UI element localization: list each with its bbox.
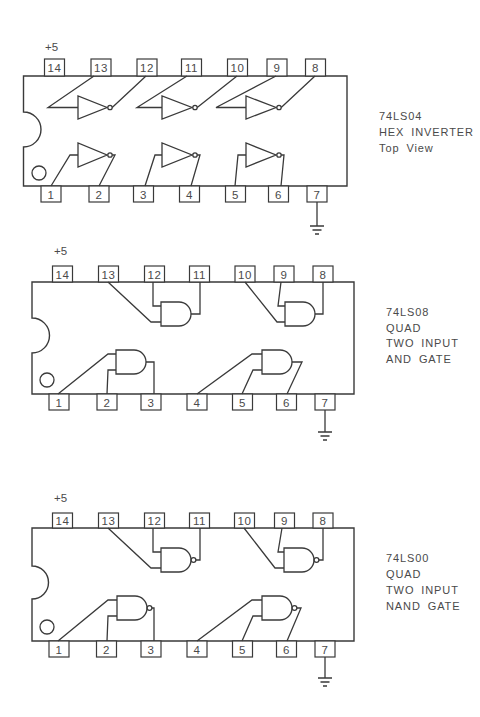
pin-3: 3 [141, 641, 161, 657]
top-pin-row: 14 13 12 11 10 9 8 [45, 59, 326, 76]
chip-label: 74LS00 QUAD TWO INPUT NAND GATE [386, 552, 460, 612]
pin-5: 5 [233, 641, 253, 657]
svg-text:6: 6 [283, 397, 290, 409]
chip-74ls00: +5 14 13 12 11 10 9 8 1 2 3 4 5 6 7 [32, 492, 460, 686]
chip-description: QUAD [386, 568, 421, 580]
supply-label: +5 [45, 41, 58, 53]
svg-text:10: 10 [238, 515, 252, 527]
pin-13: 13 [91, 59, 111, 76]
svg-text:13: 13 [102, 269, 116, 281]
part-number: 74LS00 [386, 552, 429, 564]
pin-1: 1 [49, 394, 69, 410]
svg-text:3: 3 [140, 189, 147, 201]
svg-text:4: 4 [194, 644, 201, 656]
svg-text:4: 4 [194, 397, 201, 409]
svg-text:8: 8 [320, 269, 327, 281]
chip-label: 74LS08 QUAD TWO INPUT AND GATE [386, 306, 459, 365]
svg-text:13: 13 [102, 515, 116, 527]
svg-text:5: 5 [232, 189, 239, 201]
pin-4: 4 [187, 641, 207, 657]
pin-9: 9 [275, 513, 295, 528]
svg-text:5: 5 [239, 397, 246, 409]
svg-text:1: 1 [56, 644, 63, 656]
pin-13: 13 [99, 266, 119, 282]
svg-text:11: 11 [193, 515, 206, 527]
svg-text:6: 6 [283, 644, 290, 656]
chip-74ls08: +5 14 13 12 11 10 9 8 1 2 3 4 5 6 7 [32, 245, 459, 440]
chip-body [32, 282, 354, 394]
svg-text:6: 6 [275, 189, 282, 201]
top-pin-row: 14 13 12 11 10 9 8 [53, 513, 334, 528]
pin-7: 7 [307, 186, 327, 202]
svg-text:14: 14 [56, 269, 70, 281]
pin-5: 5 [226, 186, 246, 202]
svg-text:1: 1 [48, 189, 55, 201]
svg-text:7: 7 [322, 644, 329, 656]
pin-8: 8 [306, 59, 326, 76]
svg-text:8: 8 [312, 62, 319, 74]
svg-text:2: 2 [103, 644, 110, 656]
chip-description: QUAD [386, 322, 421, 334]
svg-text:9: 9 [281, 515, 288, 527]
svg-text:9: 9 [274, 62, 281, 74]
pin-13: 13 [99, 513, 119, 528]
pin-2: 2 [97, 641, 117, 657]
pin-3: 3 [134, 186, 154, 202]
bottom-pin-row: 1 2 3 4 5 6 7 [49, 641, 335, 657]
pin-1: 1 [49, 641, 69, 657]
ground-icon [310, 202, 324, 234]
svg-text:7: 7 [314, 189, 321, 201]
svg-text:10: 10 [238, 269, 252, 281]
svg-text:7: 7 [322, 397, 329, 409]
pin-14: 14 [53, 513, 73, 528]
pin-2: 2 [97, 394, 117, 410]
pin-8: 8 [313, 513, 333, 528]
pin-4: 4 [180, 186, 200, 202]
pin-11: 11 [182, 59, 202, 76]
svg-text:5: 5 [239, 644, 246, 656]
svg-text:1: 1 [56, 397, 63, 409]
pin-12: 12 [145, 266, 165, 282]
pin-6: 6 [277, 394, 297, 410]
svg-text:14: 14 [56, 515, 70, 527]
chip-description: NAND GATE [386, 600, 460, 612]
part-number: 74LS08 [386, 306, 429, 318]
svg-text:4: 4 [186, 189, 193, 201]
supply-label: +5 [54, 492, 67, 504]
pin-10: 10 [235, 266, 255, 282]
pin-12: 12 [145, 513, 165, 528]
pin-6: 6 [269, 186, 289, 202]
pin-4: 4 [187, 394, 207, 410]
svg-text:9: 9 [281, 269, 288, 281]
svg-text:10: 10 [231, 62, 245, 74]
pin-7: 7 [315, 394, 335, 410]
svg-text:12: 12 [148, 269, 162, 281]
svg-text:2: 2 [104, 397, 111, 409]
svg-text:3: 3 [148, 644, 155, 656]
pin-6: 6 [277, 641, 297, 657]
pin-9: 9 [267, 59, 287, 76]
part-number: 74LS04 [379, 110, 422, 122]
svg-text:14: 14 [48, 62, 62, 74]
pin-11: 11 [190, 266, 210, 282]
svg-text:13: 13 [94, 62, 108, 74]
pin-9: 9 [274, 266, 294, 282]
pin-7: 7 [315, 641, 335, 657]
ground-icon [318, 410, 332, 440]
chip-label: 74LS04 HEX INVERTER Top View [379, 110, 474, 154]
ground-icon [318, 657, 332, 686]
svg-text:3: 3 [148, 397, 155, 409]
pin-1: 1 [41, 186, 61, 202]
pin-10: 10 [228, 59, 248, 76]
chip-description: TWO INPUT [386, 337, 459, 349]
pin-11: 11 [190, 513, 210, 528]
chip-description: HEX INVERTER [379, 126, 474, 138]
pin-8: 8 [313, 266, 333, 282]
chip-description: AND GATE [386, 353, 452, 365]
chip-body [24, 76, 348, 186]
bottom-pin-row: 1 2 3 4 5 6 7 [49, 394, 335, 410]
svg-text:2: 2 [96, 189, 103, 201]
top-pin-row: 14 13 12 11 10 9 8 [53, 266, 334, 282]
pin-5: 5 [233, 394, 253, 410]
pin-2: 2 [89, 186, 109, 202]
